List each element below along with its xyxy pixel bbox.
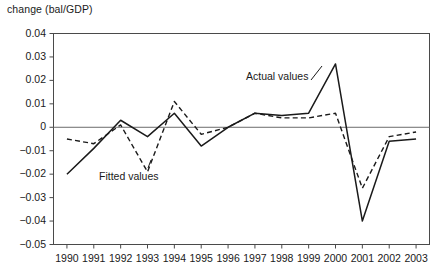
y-tick-label: −0.01 — [4, 144, 46, 156]
y-tick-label: 0.04 — [4, 27, 46, 39]
y-tick-label: 0 — [4, 120, 46, 132]
plot-area — [0, 0, 443, 275]
y-tick-label: 0.01 — [4, 97, 46, 109]
y-tick-label: 0.02 — [4, 73, 46, 85]
series-line-actual-values — [67, 64, 416, 221]
y-tick-label: −0.05 — [4, 238, 46, 250]
y-tick-label: 0.03 — [4, 50, 46, 62]
annotation-fitted-values: Fitted values — [99, 170, 159, 182]
annotation-leader-actual — [311, 66, 322, 80]
x-axis-ticks — [67, 245, 416, 249]
annotation-actual-values: Actual values — [246, 70, 308, 82]
plot-frame — [54, 34, 430, 245]
y-tick-label: −0.04 — [4, 214, 46, 226]
x-tick-label: 2003 — [396, 252, 436, 264]
y-axis-ticks — [50, 34, 54, 245]
y-tick-label: −0.03 — [4, 191, 46, 203]
y-tick-label: −0.02 — [4, 167, 46, 179]
chart-container: change (bal/GDP) 0.040.030.020.010−0.01−… — [0, 0, 443, 275]
